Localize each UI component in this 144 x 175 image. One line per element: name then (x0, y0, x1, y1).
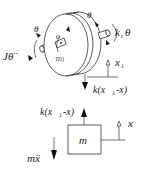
theta-right-label: θ (87, 10, 92, 20)
force-down-label: k(x 1 -x) (93, 84, 128, 96)
svg-text:1: 1 (59, 112, 62, 118)
svg-text:-x): -x) (63, 106, 75, 118)
inertia-force-arrow (51, 150, 57, 160)
theta-left-label: θ (34, 24, 39, 34)
wheel (44, 12, 101, 76)
svg-text:t: t (121, 33, 123, 39)
svg-text:θ: θ (125, 26, 131, 38)
svg-text:1: 1 (112, 90, 115, 96)
svg-text:1: 1 (121, 63, 124, 69)
svg-text:k(x: k(x (40, 106, 53, 118)
free-body-diagram: Jθ̈ θ o T(t) θ k t θ x 1 k(x 1 -x) k(x 1… (0, 0, 144, 175)
svg-text:x: x (114, 56, 120, 68)
force-down-arrow (82, 82, 88, 90)
inertia-torque-label: Jθ̈ (3, 50, 18, 62)
right-shaft (98, 29, 111, 39)
force-up-arrow (81, 108, 87, 117)
svg-text:-x): -x) (116, 84, 128, 96)
mass-label: m (79, 134, 87, 146)
x-label: x (127, 117, 133, 129)
x1-label: x 1 (114, 56, 124, 69)
svg-text:k(x: k(x (93, 84, 106, 96)
spring-torque-label: k t θ (115, 26, 131, 39)
center-point (60, 42, 62, 44)
center-label: o (56, 32, 60, 41)
x-reference (101, 121, 125, 140)
force-up-label: k(x 1 -x) (40, 106, 75, 118)
inertia-force-label: mẍ (27, 152, 40, 164)
torque-label: T(t) (55, 56, 64, 63)
